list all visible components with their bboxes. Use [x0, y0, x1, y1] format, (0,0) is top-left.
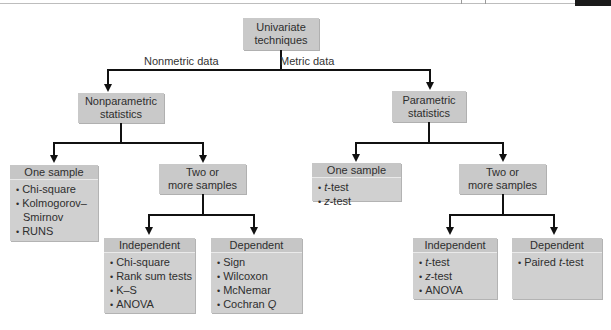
- test-list: t-test z-test: [312, 178, 401, 209]
- node-nonparametric-two-or-more-samples: Two or more samples: [159, 164, 246, 194]
- arrow-down-icon: [499, 154, 507, 162]
- page-corner-block: [575, 0, 611, 6]
- node-header: Dependent: [211, 238, 302, 253]
- test-list: t-test z-test ANOVA: [413, 253, 497, 298]
- connector: [553, 214, 555, 228]
- connector: [449, 214, 555, 216]
- test-list: Chi-square Rank sum tests K–S ANOVA: [104, 253, 195, 312]
- connector: [449, 214, 451, 228]
- item-text: -test: [431, 270, 452, 282]
- item-text: Cochran: [223, 298, 268, 310]
- arrow-down-icon: [550, 227, 558, 235]
- connector: [429, 69, 431, 83]
- node-parametric-independent: Independent t-test z-test ANOVA: [413, 238, 497, 299]
- node-label: Two or: [486, 166, 519, 179]
- node-header: Independent: [413, 238, 497, 253]
- test-list: Paired t-test: [512, 253, 602, 270]
- list-item: Rank sum tests: [110, 270, 195, 284]
- node-parametric-one-sample: One sample t-test z-test: [312, 163, 401, 201]
- list-item: t-test: [419, 256, 497, 270]
- list-item: Chi-square: [110, 256, 195, 270]
- connector: [202, 194, 204, 215]
- list-item: Paired t-test: [518, 256, 602, 270]
- arrow-down-icon: [145, 227, 153, 235]
- item-text: Paired: [524, 256, 559, 268]
- node-header: One sample: [312, 163, 401, 178]
- connector: [428, 122, 430, 143]
- node-label: more samples: [168, 179, 237, 192]
- list-item: Wilcoxon: [217, 270, 302, 284]
- edge-label-metric: Metric data: [280, 55, 334, 67]
- rule-tick: [461, 0, 462, 4]
- connector: [107, 69, 431, 71]
- arrow-down-icon: [426, 82, 434, 90]
- node-label: Univariate: [256, 21, 306, 34]
- item-text: -test: [330, 195, 351, 207]
- list-item: z-test: [419, 270, 497, 284]
- list-item: K–S: [110, 284, 195, 298]
- node-header: Independent: [104, 238, 195, 253]
- node-label: more samples: [468, 179, 537, 192]
- list-item: t-test: [318, 181, 401, 195]
- node-label: statistics: [100, 108, 142, 121]
- page-top-rule: [0, 3, 575, 4]
- node-parametric-two-or-more-samples: Two or more samples: [459, 164, 546, 194]
- list-item: McNemar: [217, 284, 302, 298]
- connector: [355, 142, 504, 144]
- item-text: -test: [428, 256, 449, 268]
- arrow-down-icon: [50, 155, 58, 163]
- node-label: Nonparametric: [85, 95, 157, 108]
- node-label: techniques: [254, 34, 307, 47]
- node-nonparametric-statistics: Nonparametric statistics: [78, 93, 164, 123]
- test-list: Chi-square Kolmogorov– Smirnov RUNS: [10, 180, 98, 239]
- edge-label-nonmetric: Nonmetric data: [144, 55, 219, 67]
- item-italic: Q: [268, 298, 277, 310]
- list-item: ANOVA: [110, 298, 195, 312]
- node-label: Two or: [186, 166, 219, 179]
- connector: [253, 214, 255, 228]
- node-parametric-dependent: Dependent Paired t-test: [512, 238, 602, 299]
- list-item: RUNS: [16, 225, 98, 239]
- connector: [53, 142, 204, 144]
- connector: [107, 69, 109, 85]
- item-text: -test: [562, 256, 583, 268]
- node-header: One sample: [10, 165, 98, 180]
- list-item: Sign: [217, 256, 302, 270]
- node-parametric-statistics: Parametric statistics: [392, 91, 466, 122]
- node-nonparametric-dependent: Dependent Sign Wilcoxon McNemar Cochran …: [211, 238, 302, 313]
- arrow-down-icon: [446, 227, 454, 235]
- connector: [53, 142, 55, 156]
- node-label: statistics: [408, 107, 450, 120]
- test-list: Sign Wilcoxon McNemar Cochran Q: [211, 253, 302, 312]
- arrow-down-icon: [250, 227, 258, 235]
- connector: [202, 142, 204, 156]
- connector: [502, 194, 504, 215]
- rule-tick: [485, 0, 486, 4]
- arrow-down-icon: [352, 154, 360, 162]
- arrow-down-icon: [104, 84, 112, 92]
- list-item: Smirnov: [16, 211, 98, 225]
- list-item: Chi-square: [16, 183, 98, 197]
- connector: [148, 214, 150, 228]
- node-header: Dependent: [512, 238, 602, 253]
- connector: [148, 214, 255, 216]
- node-nonparametric-one-sample: One sample Chi-square Kolmogorov– Smirno…: [10, 165, 98, 241]
- list-item: Cochran Q: [217, 298, 302, 312]
- list-item: z-test: [318, 195, 401, 209]
- connector: [120, 123, 122, 143]
- list-item: Kolmogorov–: [16, 197, 98, 211]
- arrow-down-icon: [199, 155, 207, 163]
- node-nonparametric-independent: Independent Chi-square Rank sum tests K–…: [104, 238, 195, 313]
- item-text: -test: [327, 181, 348, 193]
- node-label: Parametric: [402, 94, 455, 107]
- node-univariate-techniques: Univariate techniques: [243, 18, 319, 50]
- list-item: ANOVA: [419, 284, 497, 298]
